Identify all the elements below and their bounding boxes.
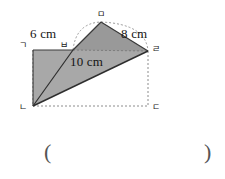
dimension-label-6cm: 6 cm [30,27,56,40]
vertex-label-giyeok: ㄱ [19,41,27,50]
vertex-label-mieum: ㅁ [97,10,105,19]
vertex-label-nieun: ㄴ [19,103,27,112]
answer-open-paren: ( [44,141,51,163]
dimension-label-10cm: 10 cm [70,55,103,68]
vertex-label-rieul: ㄹ [152,45,160,54]
answer-close-paren: ) [204,141,211,163]
vertex-label-bieup: ㅂ [60,41,68,50]
dimension-label-8cm: 8 cm [121,27,147,40]
vertex-label-digeut: ㄷ [152,103,160,112]
geometry-figure: 6 cm 8 cm 10 cm ㄱ ㅂ ㅁ ㄹ ㄴ ㄷ [0,0,225,132]
geometry-svg [0,0,225,132]
answer-blank[interactable]: ( ) [0,132,225,179]
